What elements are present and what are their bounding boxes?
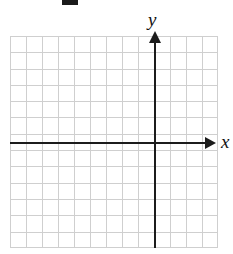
clipped-dash-mark	[62, 0, 78, 5]
grid-right-border	[217, 36, 218, 248]
x-axis-line	[10, 142, 208, 144]
y-axis-arrowhead-icon	[149, 31, 161, 43]
x-axis-label: x	[221, 132, 229, 151]
x-axis-arrowhead-icon	[205, 137, 216, 149]
y-axis-label: y	[148, 10, 156, 29]
grid-bottom-border	[10, 247, 218, 248]
y-axis-line	[154, 42, 156, 248]
coordinate-plane-figure: y x	[0, 0, 233, 254]
